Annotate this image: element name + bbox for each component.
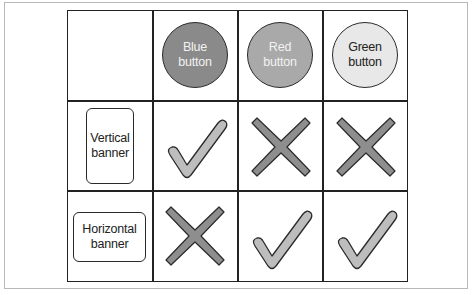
check-icon — [160, 113, 230, 183]
grid-line — [67, 190, 408, 192]
cross-icon — [336, 117, 396, 177]
check-icon — [245, 204, 315, 274]
cross-icon — [165, 206, 225, 266]
green-button-header: Greenbutton — [332, 22, 398, 88]
row-label: Horizontal — [82, 222, 136, 237]
horizontal-banner-header: Horizontalbanner — [73, 212, 146, 262]
grid-line — [67, 100, 408, 102]
header-label: Blue — [178, 40, 212, 55]
header-label: button — [348, 55, 382, 70]
vertical-banner-header: Verticalbanner — [86, 108, 134, 184]
header-label: Green — [348, 40, 382, 55]
row-label: banner — [90, 146, 129, 161]
header-label: button — [263, 55, 297, 70]
cross-icon — [251, 117, 311, 177]
header-label: button — [178, 55, 212, 70]
blue-button-header: Bluebutton — [162, 22, 228, 88]
row-label: banner — [82, 237, 136, 252]
grid-line — [237, 10, 239, 282]
red-button-header: Redbutton — [247, 22, 313, 88]
grid-line — [322, 10, 324, 282]
check-icon — [330, 204, 400, 274]
row-label: Vertical — [90, 131, 129, 146]
grid-line — [152, 10, 154, 282]
header-label: Red — [263, 40, 297, 55]
